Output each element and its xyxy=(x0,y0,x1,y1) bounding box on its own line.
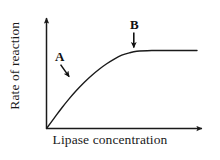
y-axis-title-wrapper: Rate of reaction xyxy=(0,0,30,132)
annotation-a-arrow xyxy=(61,65,70,77)
axis-lines xyxy=(47,18,203,129)
reaction-rate-curve xyxy=(47,50,198,128)
annotation-label-b: B xyxy=(130,18,139,31)
enzyme-saturation-chart: Rate of reaction Lipase concentration A … xyxy=(0,0,220,160)
annotation-label-a: A xyxy=(55,50,64,63)
y-axis-title: Rate of reaction xyxy=(8,22,22,110)
x-axis-title: Lipase concentration xyxy=(0,133,220,147)
data-curve-group xyxy=(47,50,198,128)
